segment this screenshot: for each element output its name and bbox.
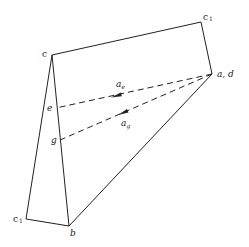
label-e: e [47,103,52,113]
edge-c-c1-top [52,22,201,55]
label-g: g [51,135,57,145]
label-a-d: a, d [217,69,234,79]
diagram-canvas: c c1 a, d e g c1 b ae ag [0,0,249,247]
edge-b-ad [69,74,212,226]
label-a-e: ae [116,79,125,90]
arrowhead-ag-icon [118,109,129,115]
label-b: b [70,228,76,238]
edge-c1-bottom-b [26,219,69,226]
vector-ag-line [60,74,212,140]
edge-c1-top-ad [201,22,212,74]
vector-ae-line [56,74,212,108]
edge-c-c1-bottom [26,55,52,219]
label-c1-top: c1 [203,12,213,22]
arrowhead-ae-icon [111,93,122,98]
label-c-top: c [42,49,47,59]
label-a-g: ag [121,118,130,130]
label-c1-bottom: c1 [13,214,23,224]
